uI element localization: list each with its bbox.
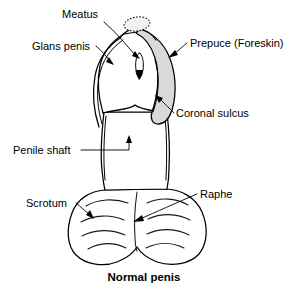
label-penile-shaft: Penile shaft	[13, 144, 70, 156]
label-meatus: Meatus	[62, 8, 99, 20]
scrotum-group	[68, 189, 206, 265]
figure-caption: Normal penis	[108, 271, 181, 283]
label-coronal-sulcus: Coronal sulcus	[176, 107, 249, 119]
label-raphe: Raphe	[200, 188, 232, 200]
label-scrotum: Scrotum	[26, 197, 67, 209]
label-glans-penis: Glans penis	[32, 40, 91, 52]
anatomy-diagram-svg: Meatus Glans penis Prepuce (Foreskin) Co…	[0, 0, 289, 293]
leader-prepuce	[168, 43, 187, 58]
label-prepuce: Prepuce (Foreskin)	[190, 37, 284, 49]
scrotal-sac-outline	[68, 189, 206, 265]
anatomy-figure: Meatus Glans penis Prepuce (Foreskin) Co…	[0, 0, 289, 293]
urethral-tip-dotted-outline	[123, 15, 151, 32]
